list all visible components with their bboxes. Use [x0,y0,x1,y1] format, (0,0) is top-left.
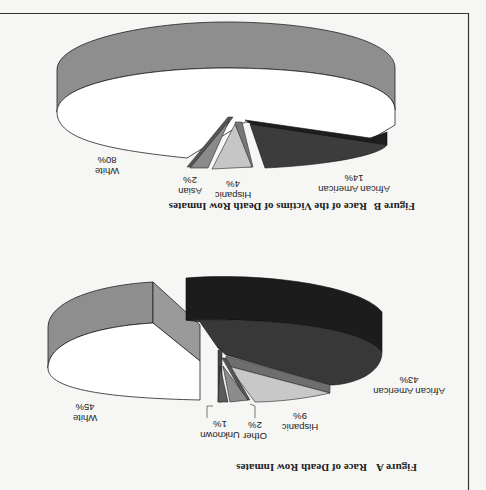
figA-other-pct: 2% [248,420,262,431]
figB-asian-name: Asian [178,186,202,197]
figure-b-pie: White 80% Asian 2% Hispanic 4% African A… [57,22,395,201]
figB-african-american-name: African American [318,184,390,195]
figA-white-pct: 45% [75,402,95,413]
figB-hispanic-pct: 4% [226,179,240,190]
figA-label-african-american: African American 43% [373,375,445,397]
figA-label-unknown: Unknown 1% [200,419,240,441]
figB-label-hispanic: Hispanic 4% [215,179,252,201]
figB-white-pct: 80% [97,155,117,166]
figA-white-name: White [73,413,97,424]
figB-hispanic-name: Hispanic [215,190,252,201]
figB-title-caption: Race of the Victims of Death Row Inmates [168,201,367,213]
figA-unknown-name: Unknown [200,430,240,441]
figure-a-pie: White 45% Unknown 1% Other 2% Hispanic 9… [48,277,445,442]
figB-label-white: White 80% [95,155,119,177]
figB-label-african-american: African American 14% [318,173,390,195]
figB-asian-pct: 2% [183,175,197,186]
figB-title-label: Figure B [373,201,415,213]
scanned-page: White 80% Asian 2% Hispanic 4% African A… [0,0,486,490]
figB-white-name: White [95,166,119,177]
figB-african-american-pct: 14% [344,173,364,184]
figA-other-leader [250,404,255,418]
figA-unknown-pct: 1% [213,419,227,430]
figA-label-hispanic: Hispanic 9% [282,411,319,433]
figA-other-name: Other [243,431,267,442]
figB-label-asian: Asian 2% [178,175,202,197]
figA-label-other: Other 2% [243,420,267,442]
figA-label-white: White 45% [73,402,97,424]
figA-african-american-pct: 43% [399,375,419,386]
figure-b-title: Figure B Race of the Victims of Death Ro… [168,201,415,213]
figA-unknown-leader [207,406,213,418]
page-canvas: White 80% Asian 2% Hispanic 4% African A… [0,0,486,490]
figA-hispanic-pct: 9% [293,411,307,422]
figA-title-caption: Race of Death Row Inmates [236,462,367,474]
figA-title-label: Figure A [376,462,417,474]
figure-a-title: Figure A Race of Death Row Inmates [236,462,417,474]
figA-african-american-name: African American [373,386,445,397]
figA-hispanic-name: Hispanic [282,422,319,433]
